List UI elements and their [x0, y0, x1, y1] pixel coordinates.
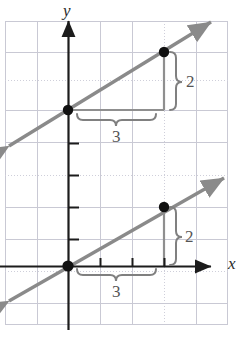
point-upper-intercept	[63, 105, 73, 115]
point-lower-second	[159, 202, 169, 212]
rise-label-top: 2	[186, 73, 195, 90]
x-axis-label: x	[228, 255, 236, 272]
point-upper-second	[159, 47, 169, 57]
run-label-bottom: 3	[112, 283, 121, 300]
coordinate-plane-svg	[0, 0, 246, 339]
rise-label-bottom: 2	[185, 228, 194, 245]
point-origin	[62, 260, 73, 271]
run-label-top: 3	[112, 128, 121, 145]
y-axis-label: y	[63, 2, 71, 19]
graph-figure: y x 2 3 2 3	[0, 0, 246, 339]
